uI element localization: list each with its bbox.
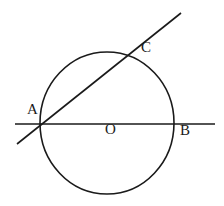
geometry-figure: A C O B [0, 0, 224, 206]
point-label-o: O [105, 122, 116, 137]
point-label-b: B [180, 123, 190, 138]
point-label-c: C [141, 40, 151, 55]
point-label-a: A [27, 102, 38, 117]
